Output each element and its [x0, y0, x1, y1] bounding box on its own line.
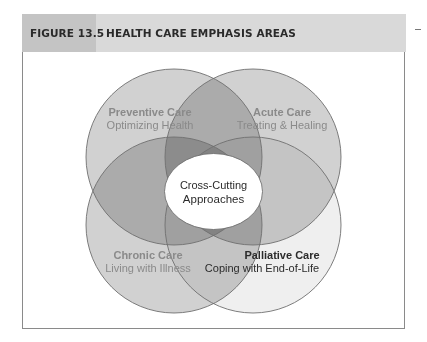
preventive-care-title: Preventive Care [108, 106, 191, 118]
center-label-line1: Cross-Cutting [180, 179, 247, 191]
center-ellipse [165, 154, 263, 230]
venn-diagram: Preventive Care Optimizing Health Acute … [0, 0, 427, 342]
palliative-care-subtitle: Coping with End-of-Life [205, 262, 319, 274]
chronic-care-title: Chronic Care [113, 249, 182, 261]
center-label-line2: Approaches [183, 193, 245, 205]
palliative-care-title: Palliative Care [244, 249, 319, 261]
acute-care-title: Acute Care [253, 106, 311, 118]
acute-care-subtitle: Treating & Healing [237, 119, 328, 131]
chronic-care-subtitle: Living with Illness [105, 262, 191, 274]
preventive-care-subtitle: Optimizing Health [107, 119, 194, 131]
